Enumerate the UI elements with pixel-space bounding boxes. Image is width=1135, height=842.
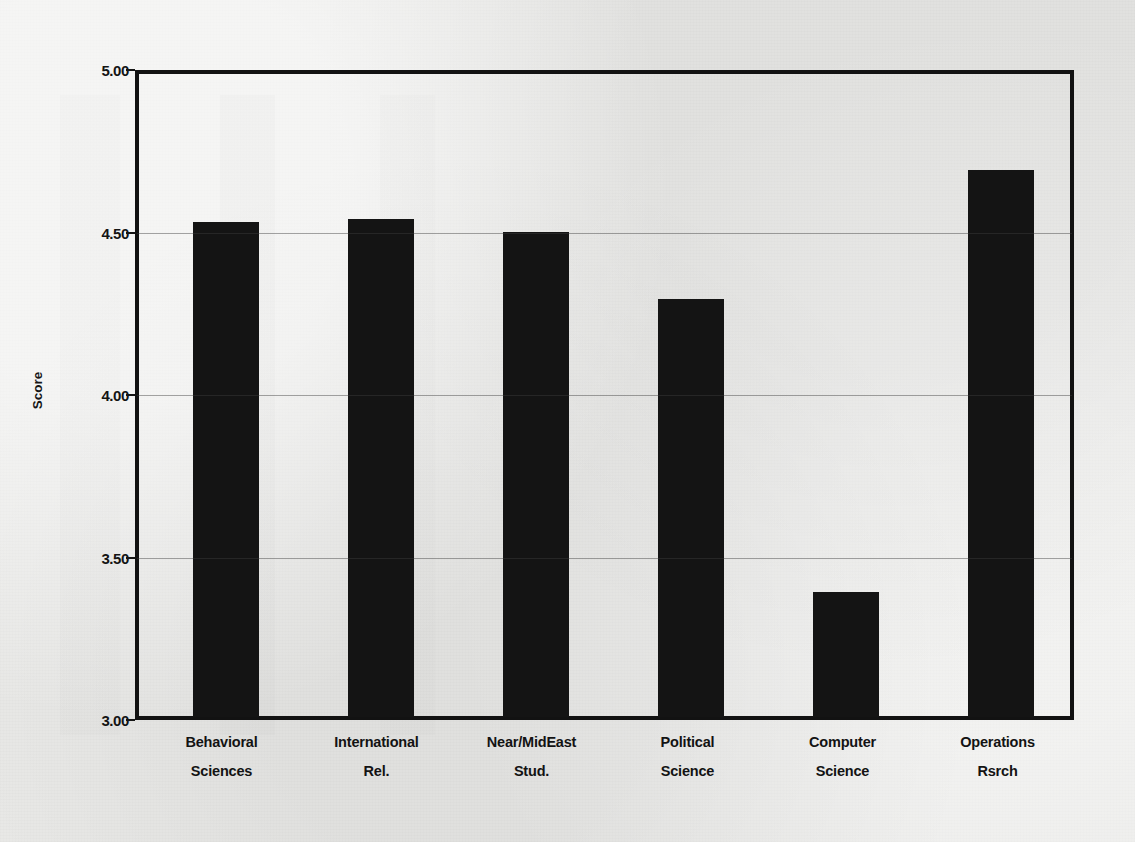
bar (348, 219, 414, 717)
gridline (137, 233, 1072, 234)
y-axis-tick-label: 3.50 (67, 549, 129, 566)
gridline (137, 395, 1072, 396)
y-axis-tick-labels: 3.003.504.004.505.00 (55, 0, 129, 842)
y-axis-tick-mark (126, 394, 135, 396)
x-axis-tick-label-line: Rsrch (900, 757, 1095, 786)
y-axis-tick-label: 3.00 (67, 712, 129, 729)
bar (658, 299, 724, 717)
x-axis-tick-labels: BehavioralSciencesInternationalRel.Near/… (135, 728, 1074, 798)
y-axis-title: Score (30, 351, 45, 431)
bar (968, 170, 1034, 717)
y-axis-tick-mark (126, 232, 135, 234)
y-axis-tick-label: 4.50 (67, 224, 129, 241)
y-axis-tick-mark (126, 69, 135, 71)
bar-chart: Score 3.003.504.004.505.00 BehavioralSci… (0, 0, 1135, 842)
x-axis-tick-label: OperationsRsrch (900, 728, 1095, 786)
y-axis-tick-label: 5.00 (67, 62, 129, 79)
gridline (137, 558, 1072, 559)
x-axis-tick-label-line: Operations (900, 728, 1095, 757)
y-axis-tick-mark (126, 557, 135, 559)
bar (813, 592, 879, 717)
y-axis-tick-label: 4.00 (67, 387, 129, 404)
bar (503, 232, 569, 717)
bar (193, 222, 259, 717)
y-axis-tick-mark (126, 719, 135, 721)
